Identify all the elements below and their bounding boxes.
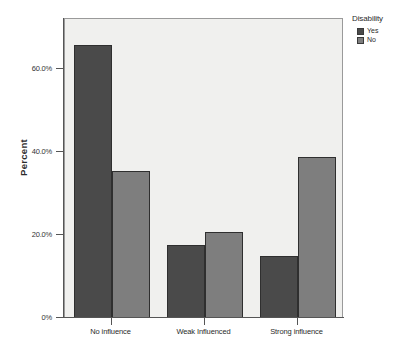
y-tick-label: 40.0% (4, 146, 52, 155)
x-tick-mark (111, 318, 112, 325)
bar-yes-1 (167, 245, 205, 318)
y-tick-mark (56, 234, 64, 235)
x-tick-mark (204, 318, 205, 325)
legend-item-yes[interactable]: Yes (357, 27, 406, 35)
y-axis-title: Percent (18, 123, 29, 193)
legend-swatch-icon (357, 28, 364, 35)
legend-swatch-icon (357, 37, 364, 44)
legend-item-no[interactable]: No (357, 36, 406, 44)
bar-yes-0 (74, 45, 112, 318)
legend-items: YesNo (352, 27, 406, 44)
legend-item-label: No (367, 36, 376, 44)
y-tick-mark (56, 151, 64, 152)
y-tick-label: 0% (4, 313, 52, 322)
bars-container (65, 19, 342, 317)
plot-area (64, 18, 343, 318)
bar-no-0 (112, 171, 150, 318)
legend: Disability YesNo (352, 14, 406, 45)
legend-title: Disability (352, 14, 406, 23)
y-tick-mark (56, 68, 64, 69)
y-tick-label: 20.0% (4, 229, 52, 238)
bar-yes-2 (260, 256, 298, 318)
legend-item-label: Yes (367, 27, 378, 35)
y-tick-label: 60.0% (4, 63, 52, 72)
bar-no-1 (205, 232, 243, 318)
x-tick-label: Strong influence (242, 327, 352, 336)
y-axis-line (63, 18, 64, 318)
x-tick-mark (297, 318, 298, 325)
bar-no-2 (298, 157, 336, 318)
chart-page: Percent 0%20.0%40.0%60.0% No influenceWe… (0, 0, 406, 355)
